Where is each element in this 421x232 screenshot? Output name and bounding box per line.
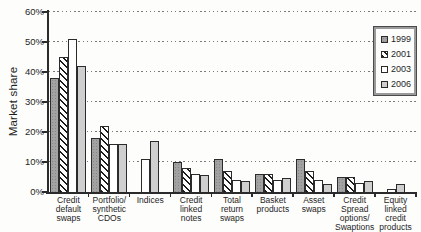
- bar-2001-6: [264, 174, 273, 192]
- legend-swatch-2006-icon: [381, 81, 388, 88]
- y-tick-mark-10: [42, 161, 47, 163]
- bar-1999-8: [337, 177, 346, 192]
- bar-2006-7: [323, 184, 332, 192]
- category-label-line: notes: [171, 214, 212, 223]
- y-tick-label-60: 60%: [14, 6, 44, 17]
- y-tick-label-40: 40%: [14, 66, 44, 77]
- bar-group-4: [171, 12, 212, 192]
- bar-2001-7: [305, 171, 314, 192]
- bar-2006-3: [150, 141, 159, 192]
- bar-group-1: [48, 12, 89, 192]
- bar-group-7: [293, 12, 334, 192]
- bar-2001-5: [223, 171, 232, 192]
- bar-1999-4: [173, 162, 182, 192]
- bar-1999-2: [91, 138, 100, 192]
- bar-1999-5: [214, 159, 223, 192]
- legend-label-2006: 2006: [391, 79, 411, 89]
- bar-group-3: [130, 12, 171, 192]
- legend-swatch-2001-icon: [381, 51, 388, 58]
- category-label-line: products: [375, 223, 416, 232]
- category-label-line: Swaptions: [334, 223, 375, 232]
- bar-2003-6: [273, 180, 282, 192]
- category-label-line: swaps: [48, 214, 89, 223]
- category-label-4: Creditlinkednotes: [171, 196, 212, 232]
- category-label-line: swaps: [293, 205, 334, 214]
- y-tick-label-20: 20%: [14, 126, 44, 137]
- legend: 1999200120032006: [374, 27, 416, 95]
- bar-group-5: [212, 12, 253, 192]
- bar-group-8: [334, 12, 375, 192]
- y-tick-mark-40: [42, 71, 47, 73]
- bar-2003-4: [191, 174, 200, 192]
- bar-2001-1: [59, 57, 68, 192]
- legend-label-1999: 1999: [391, 34, 411, 44]
- bar-1999-1: [50, 78, 59, 192]
- bar-2001-4: [182, 168, 191, 192]
- bar-2006-1: [77, 66, 86, 192]
- bar-2006-9: [396, 184, 405, 192]
- legend-item-1999: 1999: [381, 34, 414, 44]
- category-label-1: Creditdefaultswaps: [48, 196, 89, 232]
- bar-2003-1: [68, 39, 77, 192]
- bar-2003-7: [314, 180, 323, 192]
- category-label-7: Assetswaps: [293, 196, 334, 232]
- category-label-line: products: [252, 205, 293, 214]
- x-axis-line: [46, 192, 417, 194]
- bar-2006-4: [200, 175, 209, 192]
- bar-2006-2: [118, 144, 127, 192]
- bar-1999-7: [296, 159, 305, 192]
- y-tick-mark-30: [42, 101, 47, 103]
- bar-group-6: [252, 12, 293, 192]
- legend-label-2003: 2003: [391, 64, 411, 74]
- category-label-2: Portfolio/syntheticCDOs: [89, 196, 130, 232]
- y-tick-mark-50: [42, 41, 47, 43]
- legend-item-2006: 2006: [381, 79, 414, 89]
- bar-2003-2: [109, 144, 118, 192]
- legend-item-2001: 2001: [381, 49, 414, 59]
- bar-1999-6: [255, 174, 264, 192]
- bar-group-2: [89, 12, 130, 192]
- bar-2001-8: [346, 177, 355, 192]
- category-label-6: Basketproducts: [252, 196, 293, 232]
- category-label-5: Totalreturnswaps: [212, 196, 253, 232]
- bar-2003-3: [141, 159, 150, 192]
- bar-2006-6: [282, 178, 291, 192]
- category-label-line: swaps: [212, 214, 253, 223]
- y-tick-mark-20: [42, 131, 47, 133]
- category-label-8: CreditSpreadoptions/Swaptions: [334, 196, 375, 232]
- bar-2006-5: [241, 181, 250, 192]
- y-tick-label-0: 0%: [14, 186, 44, 197]
- y-tick-label-30: 30%: [14, 96, 44, 107]
- y-tick-mark-60: [42, 11, 47, 13]
- category-label-line: CDOs: [89, 214, 130, 223]
- plot-area: [48, 12, 416, 192]
- y-tick-label-10: 10%: [14, 156, 44, 167]
- bar-2003-5: [232, 180, 241, 192]
- y-tick-label-50: 50%: [14, 36, 44, 47]
- legend-swatch-2003-icon: [381, 66, 388, 73]
- legend-label-2001: 2001: [391, 49, 411, 59]
- category-axis-labels: CreditdefaultswapsPortfolio/syntheticCDO…: [48, 196, 416, 232]
- category-label-9: Equitylinkedcreditproducts: [375, 196, 416, 232]
- category-label-3: Indices: [130, 196, 171, 232]
- legend-swatch-1999-icon: [381, 36, 388, 43]
- category-label-line: Indices: [130, 196, 171, 205]
- bar-2003-8: [355, 183, 364, 192]
- bar-2001-2: [100, 126, 109, 192]
- legend-item-2003: 2003: [381, 64, 414, 74]
- bar-2006-8: [364, 181, 373, 192]
- market-share-chart: Market share 0%10%20%30%40%50%60% Credit…: [0, 0, 421, 232]
